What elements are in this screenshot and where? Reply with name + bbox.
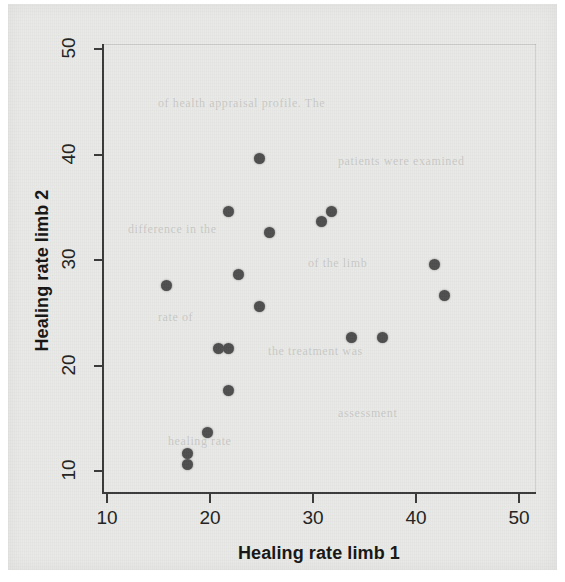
data-point <box>439 290 450 301</box>
data-point <box>326 206 337 217</box>
x-axis-tick-label: 40 <box>393 507 439 529</box>
data-point <box>346 332 357 343</box>
data-point <box>264 227 275 238</box>
x-axis-tick-label: 10 <box>84 507 130 529</box>
y-axis-tick-label: 10 <box>58 453 80 487</box>
data-point <box>254 301 265 312</box>
scanned-paper-panel: of health appraisal profile. Thepatients… <box>8 4 557 570</box>
data-point <box>316 216 327 227</box>
data-point <box>223 206 234 217</box>
x-axis-tick <box>106 494 108 503</box>
x-axis-tick <box>518 494 520 503</box>
data-point <box>182 448 193 459</box>
x-axis-tick <box>209 494 211 503</box>
data-point <box>429 259 440 270</box>
data-point <box>223 385 234 396</box>
data-point <box>161 280 172 291</box>
x-axis-title: Healing rate limb 1 <box>102 543 536 564</box>
x-axis-tick <box>415 494 417 503</box>
data-point <box>182 459 193 470</box>
data-point <box>202 427 213 438</box>
data-point <box>233 269 244 280</box>
y-axis-tick-label: 50 <box>58 31 80 65</box>
x-axis-tick <box>312 494 314 503</box>
data-point <box>377 332 388 343</box>
x-axis-tick-label: 50 <box>496 507 542 529</box>
x-axis-spine <box>102 492 536 494</box>
x-axis-tick-label: 30 <box>290 507 336 529</box>
figure-page: of health appraisal profile. Thepatients… <box>0 0 565 582</box>
y-axis-tick-label: 40 <box>58 137 80 171</box>
y-axis-tick-label: 20 <box>58 348 80 382</box>
data-point <box>254 153 265 164</box>
y-axis-title: Healing rate limb 2 <box>32 47 53 495</box>
y-axis-tick-label: 30 <box>58 242 80 276</box>
x-axis-tick-label: 20 <box>187 507 233 529</box>
scatter-plot-area <box>102 44 536 492</box>
data-point <box>213 343 224 354</box>
data-point <box>223 343 234 354</box>
